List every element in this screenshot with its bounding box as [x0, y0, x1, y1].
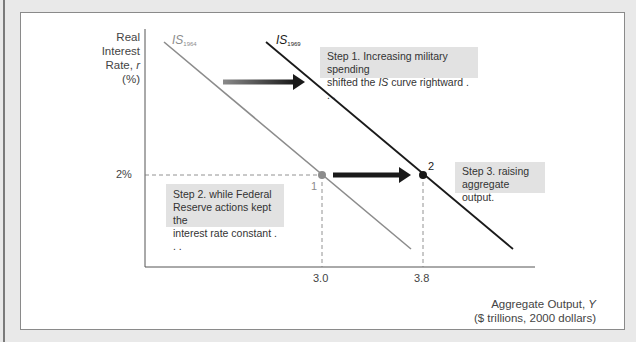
- step-2-annotation: Step 2. while Federal Reserve actions ke…: [166, 184, 284, 227]
- shift-arrow: [223, 74, 305, 90]
- step-2-line: interest rate constant . . .: [173, 227, 277, 253]
- step-3-line: Step 3. raising: [462, 165, 538, 178]
- step-1-line: Step 1. Increasing military spending: [327, 50, 471, 76]
- x-label-line: ($ trillions, 2000 dollars): [380, 311, 596, 325]
- x-tick-3-8: 3.8: [414, 272, 429, 285]
- x-label-line: Aggregate Output,: [491, 298, 588, 310]
- x-tick-3-0: 3.0: [313, 272, 328, 285]
- point-2-marker: [419, 171, 427, 179]
- point-1-marker: [318, 171, 326, 179]
- y-axis-label: Real Interest Rate, r (%): [60, 30, 140, 86]
- output-arrow: [333, 167, 411, 183]
- y-label-line: Real: [60, 30, 140, 44]
- is1964-label: IS1964: [172, 34, 197, 51]
- point-2-label: 2: [428, 160, 434, 173]
- y-label-var: r: [136, 59, 140, 71]
- step-2-line: Step 2. while Federal: [173, 188, 277, 201]
- point-1-label: 1: [311, 180, 317, 193]
- step-3-line: aggregate output.: [462, 178, 538, 204]
- y-label-line: Interest: [60, 44, 140, 58]
- is1969-label: IS1969: [276, 34, 301, 51]
- y-tick-2pct: 2%: [116, 168, 132, 181]
- x-axis-label: Aggregate Output, Y ($ trillions, 2000 d…: [380, 297, 596, 325]
- y-label-line: (%): [60, 72, 140, 86]
- x-label-var: Y: [588, 298, 596, 310]
- y-label-line: Rate,: [105, 59, 136, 71]
- step-1-annotation: Step 1. Increasing military spending shi…: [320, 47, 478, 78]
- step-3-annotation: Step 3. raising aggregate output.: [455, 162, 545, 193]
- step-2-line: Reserve actions kept the: [173, 201, 277, 227]
